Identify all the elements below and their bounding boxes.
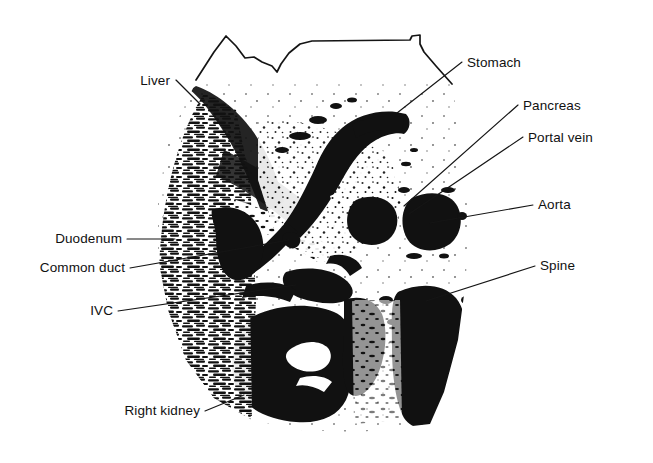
label-stomach: Stomach — [467, 55, 521, 70]
ultrasound-figure-page: Liver Stomach Pancreas Portal vein Aorta… — [0, 0, 653, 463]
label-common-duct: Common duct — [40, 260, 125, 275]
label-aorta: Aorta — [538, 197, 571, 212]
label-portal-vein: Portal vein — [528, 130, 593, 145]
interorgan-texture — [352, 300, 402, 424]
aorta-mass — [402, 193, 460, 250]
portal-vein-blob — [347, 197, 397, 245]
ultrasound-figure: Liver Stomach Pancreas Portal vein Aorta… — [0, 0, 653, 463]
label-right-kidney: Right kidney — [125, 403, 201, 418]
label-pancreas: Pancreas — [523, 98, 581, 113]
label-spine: Spine — [540, 258, 575, 273]
label-duodenum: Duodenum — [55, 231, 122, 246]
label-ivc: IVC — [90, 303, 113, 318]
label-liver: Liver — [140, 73, 170, 88]
